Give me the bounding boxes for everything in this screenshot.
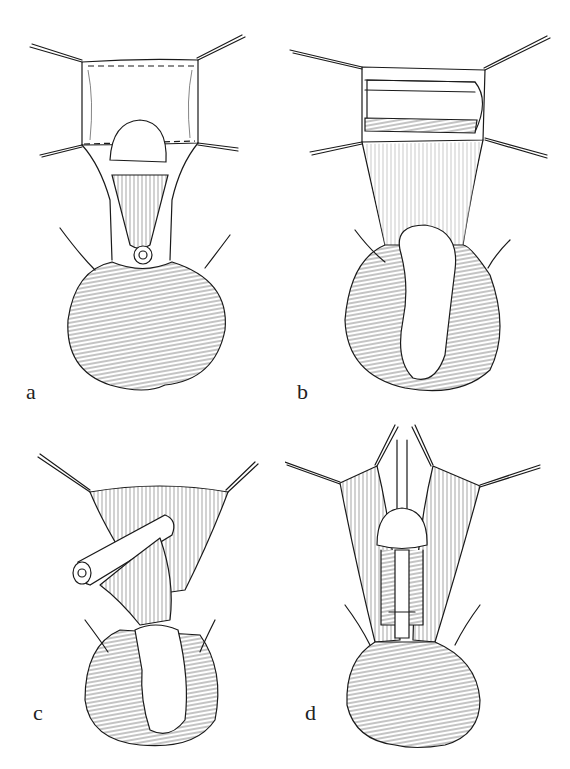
panel-d: d — [285, 420, 570, 769]
panel-label: c — [33, 702, 43, 724]
panel-label: b — [297, 381, 308, 403]
panel-b: b — [285, 0, 570, 420]
panel-c: c — [0, 420, 285, 769]
illustration-d — [285, 420, 570, 769]
panel-a: a — [0, 0, 285, 420]
illustration-a — [0, 0, 285, 420]
illustration-b — [285, 0, 570, 420]
panel-label: d — [305, 702, 316, 724]
panel-label: a — [26, 381, 36, 403]
